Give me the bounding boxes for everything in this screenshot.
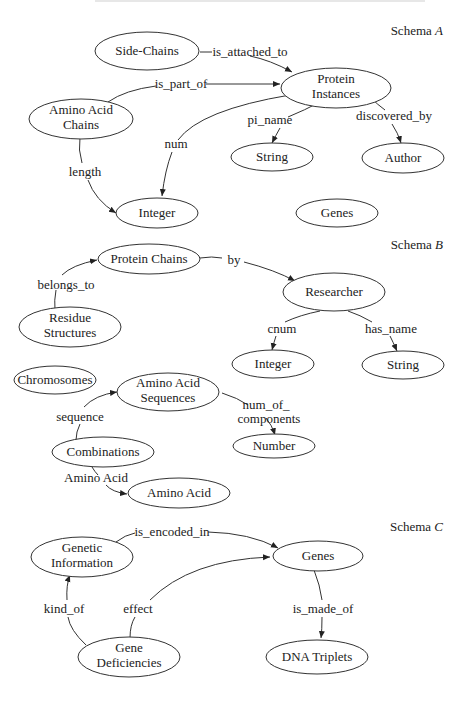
edge-length-line1 — [79, 137, 82, 163]
node-protein-chains: Protein Chains — [98, 244, 200, 274]
edge-is-made-of-line2 — [321, 617, 322, 638]
edge-label-cnum: cnum — [268, 321, 297, 336]
edge-label-by: by — [228, 252, 242, 267]
svg-text:Instances: Instances — [312, 86, 360, 101]
node-amino-acid-sequences: Amino Acid Sequences — [117, 373, 219, 411]
edge-num-line2 — [162, 152, 172, 196]
node-gene-deficiencies: Gene Deficiencies — [78, 637, 180, 677]
node-researcher: Researcher — [283, 273, 385, 311]
edge-is-encoded-in-line1 — [116, 533, 135, 542]
edge-sequence-line2 — [84, 392, 117, 407]
edge-is-part-of-line1 — [108, 86, 156, 102]
edge-label-has-name: has_name — [365, 321, 417, 336]
schema-b-label: Schema B — [391, 237, 443, 252]
edge-label-amino-acid: Amino Acid — [64, 470, 128, 485]
node-chromosomes: Chromosomes — [14, 366, 96, 394]
edge-label-is-attached-to: is_attached_to — [212, 44, 287, 59]
svg-text:Genes: Genes — [302, 548, 335, 563]
node-protein-instances: Protein Instances — [281, 68, 391, 108]
svg-text:Integer: Integer — [139, 205, 176, 220]
svg-text:Genes: Genes — [321, 205, 354, 220]
node-number: Number — [233, 434, 315, 458]
schema-c-label: Schema C — [390, 519, 443, 534]
edge-amino-acid-line2 — [106, 485, 127, 494]
edge-length-line2 — [88, 180, 116, 213]
edge-sequence-line1 — [76, 424, 80, 440]
edge-label-discovered-by: discovered_by — [356, 108, 432, 123]
svg-text:Residue: Residue — [49, 310, 91, 325]
edge-label-effect: effect — [123, 601, 153, 616]
svg-text:Protein Chains: Protein Chains — [111, 251, 188, 266]
svg-text:Amino Acid: Amino Acid — [136, 375, 200, 390]
page-header-fragment — [95, 0, 425, 2]
edge-label-belongs-to: belongs_to — [37, 277, 94, 292]
edge-label-num: num — [164, 136, 187, 151]
edge-label-is-made-of: is_made_of — [293, 601, 354, 616]
edge-kind-of-line2 — [67, 575, 70, 600]
edge-is-encoded-in-line2 — [208, 532, 278, 548]
node-genes-a: Genes — [296, 199, 378, 227]
edge-by-line1 — [200, 257, 222, 258]
svg-text:Integer: Integer — [255, 356, 292, 371]
edge-cnum-line2 — [272, 336, 276, 350]
edge-has-name-line2 — [390, 336, 397, 351]
edge-pi-name-line2 — [272, 128, 280, 143]
svg-text:Amino Acid: Amino Acid — [147, 485, 211, 500]
edge-label-is-part-of: is_part_of — [155, 76, 208, 91]
svg-text:Researcher: Researcher — [305, 284, 363, 299]
edge-label-num-of-components-1: num_of_ — [243, 397, 290, 412]
svg-text:Chains: Chains — [63, 117, 99, 132]
node-genetic-information: Genetic Information — [31, 537, 133, 577]
edge-effect-line2 — [150, 557, 270, 600]
node-side-chains: Side-Chains — [95, 32, 199, 70]
edge-label-num-of-components-2: components — [238, 411, 301, 426]
svg-text:Amino Acid: Amino Acid — [49, 102, 113, 117]
svg-text:Protein: Protein — [317, 71, 355, 86]
node-author: Author — [362, 143, 444, 173]
edge-label-sequence: sequence — [56, 409, 104, 424]
svg-text:String: String — [256, 149, 288, 164]
node-integer-a: Integer — [116, 198, 198, 228]
node-amino-acid-chains: Amino Acid Chains — [29, 99, 133, 139]
svg-text:Deficiencies: Deficiencies — [97, 655, 162, 670]
node-dna-triplets: DNA Triplets — [266, 640, 368, 674]
svg-text:Genetic: Genetic — [62, 540, 103, 555]
schema-diagram: Schema A is_attached_to is_part_of num l… — [0, 0, 459, 702]
node-combinations: Combinations — [52, 437, 154, 467]
edge-discovered-by-line2 — [392, 124, 401, 143]
node-string-a: String — [231, 143, 313, 171]
edge-belongs-to-line2 — [62, 260, 97, 275]
node-string-b: String — [362, 351, 444, 379]
svg-text:String: String — [387, 357, 419, 372]
edge-is-made-of-line1 — [314, 570, 322, 600]
edge-label-is-encoded-in: is_encoded_in — [134, 524, 210, 539]
svg-text:DNA Triplets: DNA Triplets — [282, 649, 352, 664]
svg-text:Structures: Structures — [44, 325, 97, 340]
node-genes-c: Genes — [273, 541, 363, 571]
edge-label-length: length — [69, 164, 102, 179]
node-integer-b: Integer — [232, 350, 314, 378]
edge-effect-line1 — [130, 617, 135, 638]
node-amino-acid: Amino Acid — [128, 478, 230, 508]
svg-text:Combinations: Combinations — [67, 444, 140, 459]
schema-a-label: Schema A — [391, 23, 443, 38]
svg-text:Sequences: Sequences — [141, 390, 196, 405]
svg-text:Author: Author — [385, 150, 423, 165]
edge-kind-of-line1 — [68, 617, 86, 645]
edge-label-pi-name: pi_name — [248, 112, 293, 127]
node-residue-structures: Residue Structures — [19, 307, 121, 347]
svg-text:Chromosomes: Chromosomes — [17, 372, 92, 387]
svg-text:Information: Information — [51, 555, 114, 570]
edge-by-line2 — [244, 262, 295, 281]
edge-label-kind-of: kind_of — [44, 601, 85, 616]
svg-text:Side-Chains: Side-Chains — [115, 43, 179, 58]
svg-text:Number: Number — [253, 438, 296, 453]
svg-text:Gene: Gene — [115, 640, 143, 655]
